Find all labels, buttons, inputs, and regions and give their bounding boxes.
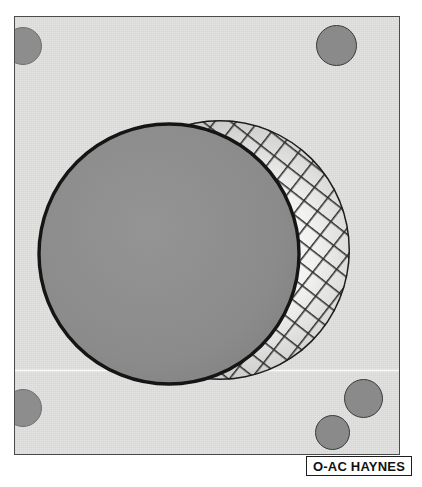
sphere-group xyxy=(15,17,399,454)
specimen-plate xyxy=(14,16,400,455)
figure-root: O-AC HAYNES xyxy=(0,0,422,487)
caption-box: O-AC HAYNES xyxy=(306,456,412,476)
caption-label: O-AC HAYNES xyxy=(313,459,405,474)
bottom-right-upper-hole xyxy=(344,379,383,418)
sphere-diagram-svg xyxy=(15,17,400,455)
top-right-hole xyxy=(316,25,357,66)
solid-sphere xyxy=(39,124,299,384)
bottom-right-lower-hole xyxy=(315,415,350,450)
